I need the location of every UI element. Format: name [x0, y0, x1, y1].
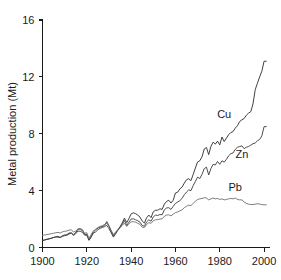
x-axis-ticks: 190019201940196019802000 — [30, 248, 276, 267]
series-annotations: CuZnPb — [217, 108, 248, 193]
y-tick-label: 8 — [28, 128, 34, 140]
series-line-cu — [43, 61, 267, 240]
series-lines — [43, 61, 267, 240]
series-label-zn: Zn — [235, 148, 248, 160]
axis-lines — [43, 20, 271, 248]
x-tick-label: 1960 — [163, 255, 187, 267]
y-axis-title: Metal production (Mt) — [6, 82, 18, 186]
y-tick-label: 4 — [28, 185, 34, 197]
x-tick-label: 1920 — [75, 255, 99, 267]
chart-figure: 0481216 190019201940196019802000 CuZnPb … — [0, 0, 281, 280]
line-chart: 0481216 190019201940196019802000 CuZnPb … — [0, 0, 281, 280]
x-tick-label: 1980 — [208, 255, 232, 267]
y-tick-label: 12 — [22, 71, 34, 83]
y-tick-label: 16 — [22, 14, 34, 26]
y-tick-label: 0 — [28, 242, 34, 254]
series-label-pb: Pb — [229, 181, 242, 193]
x-tick-label: 1900 — [30, 255, 54, 267]
x-tick-label: 1940 — [119, 255, 143, 267]
y-axis-ticks: 0481216 — [22, 14, 42, 254]
series-label-cu: Cu — [217, 108, 231, 120]
x-tick-label: 2000 — [252, 255, 276, 267]
